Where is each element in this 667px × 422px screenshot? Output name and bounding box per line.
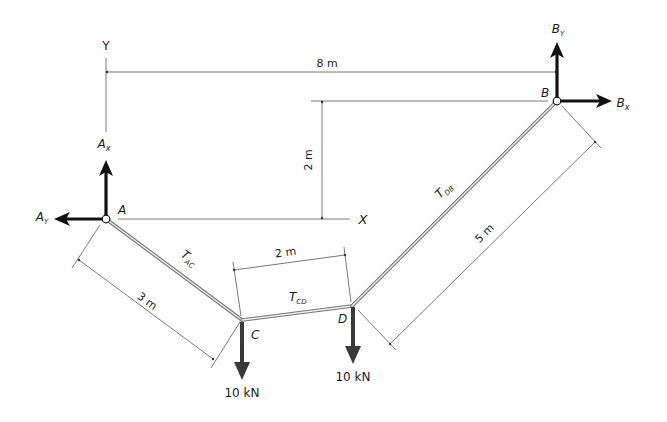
dimension-2m-vertical: 2 m [302,101,548,219]
reaction-By-arrow [550,42,564,99]
dimension-2m-cd: 2 m [233,245,351,316]
point-C-label: C [251,328,260,342]
reaction-Bx-label: Bx [617,96,630,112]
cable-AC [106,219,242,320]
pin-support-A [102,215,110,223]
tension-CD-sub: CD [296,298,307,306]
reaction-Ay-label: AY [35,210,49,226]
tension-CD-label: TCD [289,290,307,306]
point-D-label: D [338,312,347,326]
pin-support-B [553,97,561,105]
dimension-8m-label: 8 m [316,57,337,70]
load-C-arrow [234,322,250,380]
point-B-label: B [541,86,549,100]
cable-diagram: Y 8 m 2 m X 3 m 2 m [0,0,667,422]
tension-DB-label: TDB [432,179,456,203]
reaction-Bx-arrow [559,94,612,108]
dimension-8m: 8 m [106,57,557,73]
reaction-Ax-label: Ax [97,137,111,153]
cable-CD [242,306,352,320]
reaction-Ay-arrow [54,212,104,226]
reaction-Ax-arrow [99,160,113,217]
cable-DB [352,101,557,306]
y-axis-label: Y [101,39,110,53]
y-axis: Y [101,39,110,132]
dimension-2m-cd-label: 2 m [274,245,297,261]
svg-text:TDB: TDB [432,179,456,203]
load-C-label: 10 kN [224,386,259,400]
svg-text:TCD: TCD [289,290,307,306]
x-axis-label: X [358,212,369,227]
tension-AC-label: TAC [177,247,200,270]
load-D-arrow [345,307,361,364]
svg-text:TAC: TAC [177,247,200,270]
dimension-5m: 5 m [358,106,601,350]
dimension-3m-label: 3 m [135,290,160,313]
dimension-3m: 3 m [72,225,240,368]
dimension-2m-vertical-label: 2 m [302,149,315,170]
x-axis: X [118,212,369,227]
point-A-label: A [117,203,126,217]
load-D-label: 10 kN [335,370,370,384]
reaction-By-label: BY [552,22,565,38]
